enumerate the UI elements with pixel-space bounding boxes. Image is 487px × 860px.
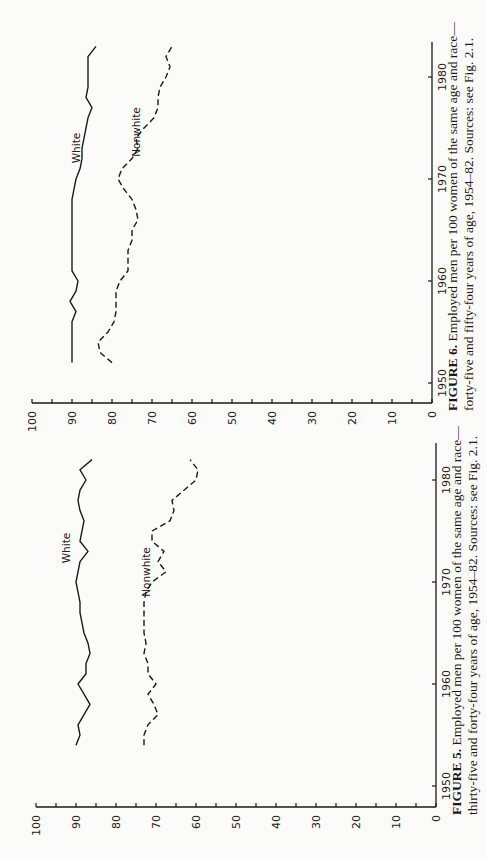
series-label-white: White — [60, 533, 72, 564]
value-tick-label: 20 — [350, 815, 363, 829]
caption-line-1: Employed men per 100 women of the same a… — [449, 426, 464, 746]
value-tick-label: 90 — [70, 815, 83, 829]
value-tick-label: 50 — [226, 411, 239, 425]
value-tick-label: 20 — [346, 411, 359, 425]
value-tick-label: 40 — [270, 815, 283, 829]
figure-5: 01020304050607080901001950196019701980Wh… — [30, 426, 480, 836]
value-tick-label: 10 — [390, 815, 403, 829]
value-tick-label: 70 — [150, 815, 163, 829]
value-tick-label: 60 — [190, 815, 203, 829]
caption-line-2: thirty-five and forty-four years of age,… — [465, 436, 480, 815]
figure-number: FIGURE 6. — [445, 342, 460, 411]
value-tick-label: 70 — [146, 411, 159, 425]
value-tick-label: 100 — [26, 411, 39, 432]
series-line-nonwhite — [144, 460, 198, 746]
value-tick-label: 30 — [310, 815, 323, 829]
value-tick-label: 80 — [106, 411, 119, 425]
value-tick-label: 40 — [266, 411, 279, 425]
series-label-white: White — [70, 133, 82, 164]
value-tick-label: 60 — [186, 411, 199, 425]
value-tick-label: 0 — [426, 411, 439, 418]
svg-text:FIGURE 5. Employed men per 100: FIGURE 5. Employed men per 100 women of … — [449, 426, 464, 815]
series-line-white — [76, 460, 92, 746]
chart-page: 01020304050607080901001950196019701980Wh… — [0, 0, 487, 860]
series-line-nonwhite — [98, 46, 172, 362]
figure-6: 01020304050607080901001950196019701980Wh… — [26, 22, 476, 432]
figure-caption: FIGURE 6. Employed men per 100 women of … — [445, 22, 476, 411]
value-tick-label: 30 — [306, 411, 319, 425]
figure-caption: FIGURE 5. Employed men per 100 women of … — [449, 426, 480, 815]
value-tick-label: 10 — [386, 411, 399, 425]
series-label-nonwhite: Nonwhite — [130, 107, 142, 157]
value-axis: 0102030405060708090100 — [30, 803, 443, 836]
value-tick-label: 50 — [230, 815, 243, 829]
caption-line-1: Employed men per 100 women of the same a… — [445, 22, 460, 342]
value-tick-label: 90 — [66, 411, 79, 425]
series-line-white — [70, 46, 96, 362]
value-tick-label: 80 — [110, 815, 123, 829]
svg-text:FIGURE 6. Employed men per 100: FIGURE 6. Employed men per 100 women of … — [445, 22, 460, 411]
value-tick-label: 100 — [30, 815, 43, 836]
value-axis: 0102030405060708090100 — [26, 399, 439, 432]
figure-number: FIGURE 5. — [449, 746, 464, 815]
series-label-nonwhite: Nonwhite — [140, 547, 152, 597]
caption-line-2: forty-five and fifty-four years of age, … — [461, 38, 476, 411]
value-tick-label: 0 — [430, 815, 443, 822]
